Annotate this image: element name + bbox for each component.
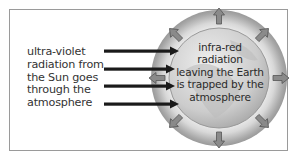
uv-label-line: radiation from: [27, 59, 107, 72]
ir-label-line: is trapped by the: [172, 78, 268, 90]
ir-radiation-label: infra-red radiation leaving the Earth is…: [172, 41, 268, 103]
ir-label-line: infra-red: [172, 41, 268, 53]
uv-label-line: ultra-violet: [27, 46, 107, 59]
uv-label-line: atmosphere: [27, 97, 107, 110]
ir-label-line: radiation: [172, 53, 268, 65]
ir-label-line: leaving the Earth: [172, 66, 268, 78]
uv-radiation-label: ultra-violet radiation from the Sun goes…: [27, 46, 107, 110]
ir-label-line: atmosphere: [172, 91, 268, 103]
